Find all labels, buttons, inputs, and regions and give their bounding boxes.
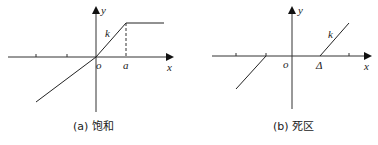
figure-canvas: y x o a k (a) 饱和 y x o Δ k (b) 死区: [0, 0, 378, 145]
breakpoint-label: Δ: [315, 59, 322, 71]
dead-zone-curve-positive: [320, 23, 349, 56]
x-axis-label: x: [166, 61, 172, 73]
origin-label: o: [283, 58, 289, 70]
panel-caption: (b) 死区: [273, 120, 314, 133]
figure-caption-clipped: [130, 139, 250, 145]
panel-dead-zone: y x o Δ k (b) 死区: [212, 4, 370, 133]
origin-label: o: [96, 59, 102, 71]
x-axis-label: x: [363, 60, 369, 72]
y-axis-label: y: [297, 4, 303, 16]
y-axis-label: y: [100, 4, 106, 16]
panel-saturation: y x o a k (a) 饱和: [8, 4, 172, 133]
slope-label: k: [328, 28, 334, 40]
dead-zone-curve-negative: [236, 56, 266, 89]
panel-caption: (a) 饱和: [73, 119, 114, 133]
slope-label: k: [105, 27, 111, 39]
breakpoint-label: a: [123, 59, 129, 71]
